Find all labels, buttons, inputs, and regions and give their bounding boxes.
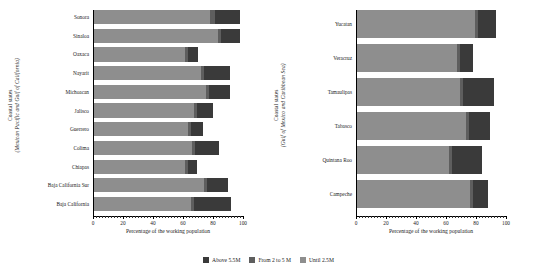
y-axis-line-left	[93, 10, 94, 216]
stacked-bar	[356, 180, 506, 208]
x-axis-minor-tick	[195, 216, 196, 218]
stacked-bar	[93, 122, 243, 136]
x-axis-right: Percentage of the working population 020…	[356, 216, 506, 242]
category-label: Colima	[73, 145, 89, 151]
x-axis-minor-tick	[231, 216, 232, 218]
x-axis-minor-tick	[434, 216, 435, 218]
x-axis-tick	[153, 216, 154, 219]
x-axis-left: Percentage of the working population 020…	[93, 216, 243, 242]
x-axis-minor-tick	[431, 216, 432, 218]
x-axis-minor-tick	[419, 216, 420, 218]
stacked-bar	[93, 160, 243, 174]
bar-remainder	[490, 112, 507, 140]
bar-segment-until-2-5m	[356, 146, 449, 174]
bar-segment-until-2-5m	[93, 122, 188, 136]
bar-segment-above-5-5m	[207, 178, 228, 192]
bar-segment-above-5-5m	[209, 85, 230, 99]
stacked-bar	[356, 78, 506, 106]
bar-remainder	[228, 178, 243, 192]
bar-remainder	[240, 29, 243, 43]
panel-left: Coastal states (Mexican Pacific and Gulf…	[0, 0, 268, 250]
x-axis-minor-tick	[392, 216, 393, 218]
x-axis-tick-label: 100	[239, 220, 247, 226]
x-axis-minor-tick	[198, 216, 199, 218]
x-axis-minor-tick	[398, 216, 399, 218]
x-axis-minor-tick	[479, 216, 480, 218]
bar-segment-until-2-5m	[356, 112, 466, 140]
bar-row: Campeche	[356, 180, 506, 208]
bar-segment-above-5-5m	[191, 122, 203, 136]
bar-segment-until-2-5m	[356, 10, 475, 38]
x-axis-minor-tick	[99, 216, 100, 218]
y-axis-title-left: Coastal states (Mexican Pacific and Gulf…	[2, 0, 26, 210]
category-label: Yucatan	[335, 21, 352, 27]
category-label: Baja California Sur	[48, 182, 89, 188]
category-label: Tamaulipas	[328, 89, 352, 95]
y-axis-title-left-line1: Coastal states	[7, 58, 14, 152]
x-axis-minor-tick	[180, 216, 181, 218]
stacked-bar	[93, 10, 243, 24]
category-label: Oaxaca	[73, 51, 89, 57]
x-axis-tick	[213, 216, 214, 219]
legend-label: Until 2.5M	[309, 257, 334, 264]
x-axis-minor-tick	[383, 216, 384, 218]
bar-segment-until-2-5m	[356, 78, 460, 106]
bar-segment-until-2-5m	[93, 141, 192, 155]
x-axis-minor-tick	[219, 216, 220, 218]
x-axis-minor-tick	[443, 216, 444, 218]
x-axis-minor-tick	[491, 216, 492, 218]
x-axis-minor-tick	[120, 216, 121, 218]
bar-remainder	[496, 10, 507, 38]
x-axis-minor-tick	[380, 216, 381, 218]
bar-segment-until-2-5m	[93, 103, 194, 117]
bar-segment-until-2-5m	[93, 66, 201, 80]
x-axis-minor-tick	[177, 216, 178, 218]
legend-item: Above 5.5M	[203, 257, 240, 264]
bar-row: Jalisco	[93, 103, 243, 117]
bar-row: Michoacan	[93, 85, 243, 99]
x-axis-minor-tick	[404, 216, 405, 218]
panel-right: Coastal states (Gulf of Mexico and Carib…	[268, 0, 537, 250]
x-axis-title-left: Percentage of the working population	[93, 228, 243, 235]
x-axis-minor-tick	[186, 216, 187, 218]
x-axis-minor-tick	[174, 216, 175, 218]
bar-row: Sinaloa	[93, 29, 243, 43]
x-axis-tick	[386, 216, 387, 219]
bar-segment-until-2-5m	[93, 197, 191, 211]
x-axis-minor-tick	[452, 216, 453, 218]
x-axis-minor-tick	[111, 216, 112, 218]
legend-item: Until 2.5M	[300, 257, 334, 264]
y-axis-line-right	[356, 10, 357, 216]
x-axis-minor-tick	[470, 216, 471, 218]
x-axis-tick	[416, 216, 417, 219]
y-axis-title-right: Coastal states (Gulf of Mexico and Carib…	[268, 0, 292, 210]
category-label: Campeche	[330, 191, 352, 197]
x-axis-minor-tick	[368, 216, 369, 218]
stacked-bar	[93, 85, 243, 99]
x-axis-minor-tick	[449, 216, 450, 218]
x-axis-minor-tick	[132, 216, 133, 218]
x-axis-tick-label: 40	[150, 220, 155, 226]
bar-segment-above-5-5m	[478, 10, 496, 38]
x-axis-minor-tick	[222, 216, 223, 218]
stacked-bar	[93, 103, 243, 117]
bar-row: Yucatan	[356, 10, 506, 38]
x-axis-minor-tick	[458, 216, 459, 218]
legend-label: Above 5.5M	[212, 257, 240, 264]
x-axis-minor-tick	[464, 216, 465, 218]
legend-item: From 2 to 5 M	[249, 257, 291, 264]
x-axis-minor-tick	[129, 216, 130, 218]
x-axis-minor-tick	[371, 216, 372, 218]
bar-segment-above-5-5m	[188, 160, 197, 174]
x-axis-minor-tick	[473, 216, 474, 218]
x-axis-tick-label: 20	[120, 220, 125, 226]
bar-segment-above-5-5m	[452, 146, 482, 174]
bar-segment-above-5-5m	[195, 141, 219, 155]
x-axis-minor-tick	[461, 216, 462, 218]
bar-segment-above-5-5m	[469, 112, 490, 140]
x-axis-minor-tick	[422, 216, 423, 218]
bar-segment-until-2-5m	[93, 29, 218, 43]
x-axis-minor-tick	[171, 216, 172, 218]
x-axis-tick-label: 80	[473, 220, 478, 226]
x-axis-minor-tick	[234, 216, 235, 218]
